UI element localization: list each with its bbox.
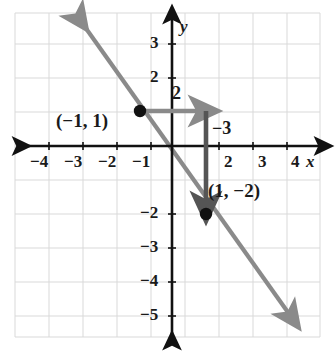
x-tick-label-minus-2: −2	[98, 152, 116, 172]
graph-canvas: y x 3 2 −2 −3 −4 −5 −4 −3 −2 −1 2 3 4 (−…	[0, 0, 335, 351]
y-tick-label-minus-4: −4	[140, 271, 158, 291]
y-axis-label: y	[180, 17, 188, 37]
rise-annotation-label: −3	[212, 118, 231, 139]
point-label-first: (−1, 1)	[56, 110, 108, 132]
point-label-second: (1, −2)	[208, 180, 260, 202]
y-tick-label-minus-2: −2	[140, 203, 158, 223]
x-tick-label-minus-3: −3	[64, 152, 82, 172]
point-marker-second	[200, 208, 212, 220]
x-tick-label-minus-1: −1	[132, 152, 150, 172]
y-tick-label-minus-3: −3	[140, 237, 158, 257]
x-tick-label-4: 4	[291, 152, 300, 172]
x-tick-label-3: 3	[258, 152, 267, 172]
y-tick-label-3: 3	[150, 33, 159, 53]
point-marker-first	[134, 105, 146, 117]
run-annotation-label: 2	[172, 83, 181, 104]
coordinate-plane-svg	[0, 0, 335, 351]
x-tick-label-minus-4: −4	[30, 152, 48, 172]
x-axis-label: x	[306, 152, 315, 172]
x-tick-label-2: 2	[224, 152, 233, 172]
grid-lines	[15, 13, 320, 337]
y-tick-label-2: 2	[150, 67, 159, 87]
y-tick-label-minus-5: −5	[140, 305, 158, 325]
